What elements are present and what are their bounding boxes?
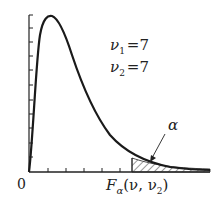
- alpha-arrow: [150, 134, 165, 162]
- origin-label: 0: [17, 176, 26, 192]
- nu2-label: ν2=7: [110, 58, 149, 78]
- critical-value-label: Fα(ν, ν2): [106, 176, 168, 196]
- nu1-label: ν1=7: [110, 36, 149, 56]
- f-distribution-figure: [0, 0, 212, 205]
- alpha-label: α: [168, 116, 178, 134]
